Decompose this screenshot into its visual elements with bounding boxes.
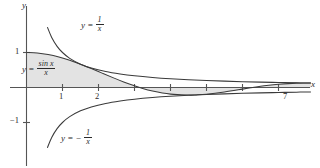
shaded-region-sinc [27,53,311,96]
shaded-area-group [27,53,311,96]
annotation-one-over-x-lhs: y = [81,20,93,30]
annotation-sinc-fraction: sin x x [37,60,56,78]
plot-canvas [0,0,320,168]
x-tick-label-2: 2 [95,91,99,101]
x-tick-label-7: 7 [283,91,287,101]
x-tick-label-1: 1 [59,91,63,101]
fraction-denominator: x [37,68,56,77]
annotation-negative-one-over-x-lhs: y = − [61,133,82,143]
annotation-sinc: y = sin x x [22,60,55,78]
y-tick-label-neg1: −1 [10,115,19,125]
x-axis-label: x [311,80,315,89]
figure-sinc-squeeze: y x 1 2 7 1 −1 y = 1 x y = sin x x y = −… [0,0,320,168]
fraction-denominator: x [84,137,92,146]
y-tick-label-1: 1 [15,46,19,56]
annotation-one-over-x: y = 1 x [81,16,104,34]
fraction-numerator: 1 [84,129,92,137]
y-axis-label: y [22,1,26,10]
fraction-denominator: x [96,24,104,33]
annotation-negative-one-over-x: y = − 1 x [61,129,92,147]
annotation-negative-one-over-x-fraction: 1 x [84,129,92,147]
annotation-one-over-x-fraction: 1 x [96,16,104,34]
annotation-sinc-lhs: y = [22,64,34,74]
fraction-numerator: sin x [37,60,56,68]
fraction-numerator: 1 [96,16,104,24]
